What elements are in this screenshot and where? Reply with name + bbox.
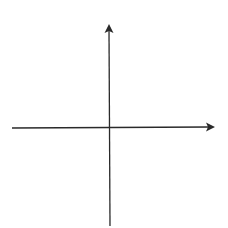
axes-diagram [0, 0, 228, 228]
x-axis-line [12, 127, 209, 128]
y-axis-line [109, 30, 110, 226]
cartesian-axes-graphic [0, 0, 228, 228]
